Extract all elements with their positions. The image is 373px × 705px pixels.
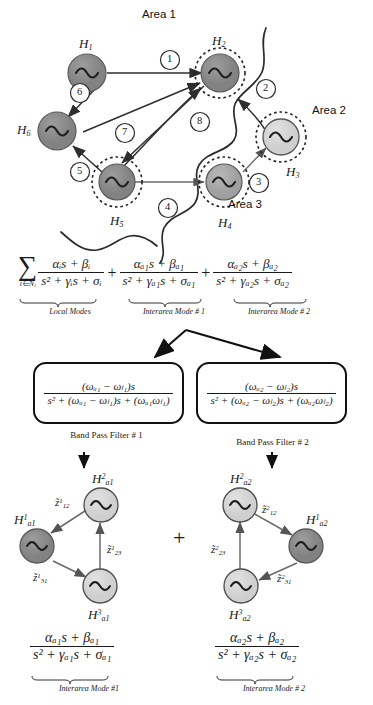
figure-canvas: Area 1 Area 2 Area 3 H1 H2 H3 H4 H5 H6 1…: [0, 0, 373, 705]
bottom-caption-1: Interarea Mode #1: [29, 684, 149, 693]
bottom-caption-2: Interarea Mode # 2: [214, 684, 334, 693]
bottom-underbraces: [0, 0, 373, 705]
